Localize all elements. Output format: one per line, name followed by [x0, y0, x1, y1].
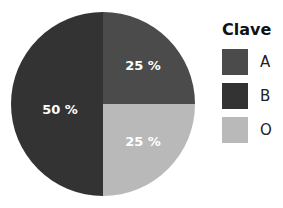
legend-item-o: O [222, 117, 272, 143]
legend-label: A [260, 53, 270, 71]
legend-swatch [222, 117, 248, 143]
slice-o [103, 104, 195, 196]
legend-item-b: B [222, 83, 272, 109]
legend-swatch [222, 49, 248, 75]
legend-label: B [260, 87, 270, 105]
pie-chart: 25 % 50 % 25 % [0, 0, 210, 208]
legend: Clave A B O [222, 20, 272, 151]
slice-a-label: 25 % [125, 58, 161, 73]
slice-b-label: 50 % [42, 102, 78, 117]
legend-swatch [222, 83, 248, 109]
legend-title: Clave [222, 20, 272, 39]
legend-item-a: A [222, 49, 272, 75]
slice-o-label: 25 % [125, 134, 161, 149]
legend-label: O [260, 121, 272, 139]
